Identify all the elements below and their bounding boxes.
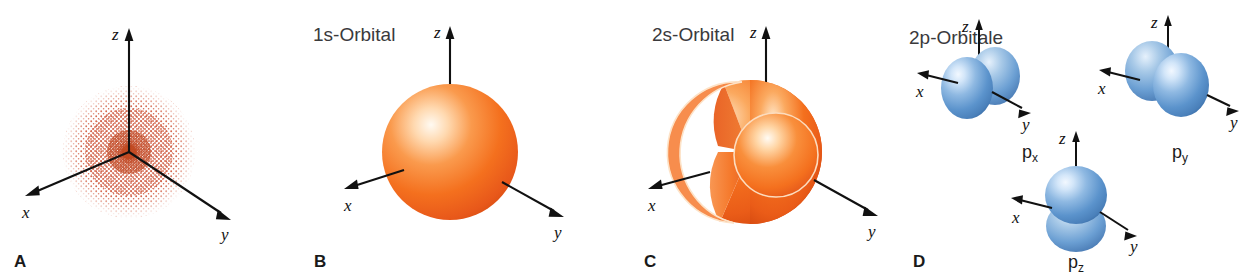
axis-label-y: y [219, 225, 229, 244]
panel-letter-b: B [314, 253, 326, 270]
axis-label-y: y [1128, 237, 1138, 256]
p-orbital-py: z x y p y [1097, 13, 1239, 165]
axis-label-x: x [1011, 208, 1020, 227]
axis-label-y: y [552, 223, 562, 242]
axis-label-z: z [111, 25, 119, 44]
axis-label-z: z [961, 17, 969, 36]
panel-a-electron-cloud: z x y A [0, 0, 300, 276]
panel-b-1s-orbital: 1s-Orbital [300, 0, 600, 276]
px-label-sub: x [1032, 151, 1038, 165]
panel-letter-d: D [913, 253, 925, 270]
z-axis-arrowhead [446, 26, 455, 39]
x-axis-arrowhead [917, 70, 929, 79]
axis-label-x: x [915, 82, 924, 101]
y-axis-arrowhead [549, 208, 564, 218]
y-axis-arrowhead [216, 210, 231, 220]
z-axis-arrowhead [125, 28, 134, 41]
panel-d-graphic: z x y p x [900, 0, 1252, 276]
axis-label-x: x [343, 196, 352, 215]
px-lobe-front [941, 57, 993, 119]
py-lobe-front [1153, 53, 1209, 117]
py-label-sub: y [1182, 151, 1188, 165]
axis-label-x: x [647, 196, 656, 215]
axis-label-y: y [866, 222, 876, 241]
x-axis-arrowhead [1011, 195, 1023, 204]
x-axis-arrowhead [1099, 67, 1111, 76]
axis-label-y: y [1228, 113, 1238, 132]
x-axis-arrowhead [25, 186, 40, 197]
axis-label-z: z [1150, 13, 1158, 32]
panel-c-2s-orbital: 2s-Orbital [600, 0, 900, 276]
orbital-figure: z x y A 1s-Orbital [0, 0, 1252, 276]
x-axis-arrowhead [648, 180, 663, 189]
z-axis-arrowhead [975, 19, 983, 30]
panel-letter-a: A [14, 253, 26, 270]
panel-d-2p-orbitals: 2p-Orbitale [900, 0, 1252, 276]
axis-label-z: z [1058, 129, 1066, 148]
axis-label-x: x [1097, 79, 1106, 98]
px-label: p [1022, 142, 1032, 162]
x-axis-arrowhead [344, 180, 359, 190]
p-orbital-px: z x y p x [915, 17, 1038, 165]
z-axis-arrowhead [1164, 15, 1172, 26]
axis-label-y: y [1020, 115, 1030, 134]
axis-label-z: z [433, 23, 441, 42]
panel-letter-c: C [644, 253, 656, 270]
panel-c-graphic: z x y [600, 0, 900, 276]
axis-label-z: z [749, 23, 757, 42]
1s-sphere [382, 84, 518, 220]
pz-label: p [1068, 252, 1078, 272]
axis-label-x: x [21, 203, 30, 222]
y-axis-arrowhead [863, 207, 878, 216]
py-label: p [1172, 142, 1182, 162]
panel-b-graphic: z x y [300, 0, 600, 276]
z-axis-arrowhead [762, 26, 771, 39]
2s-inner-sphere [734, 113, 818, 197]
z-axis-arrowhead [1072, 131, 1080, 142]
pz-lobe-upper [1045, 166, 1107, 224]
panel-a-graphic: z x y [0, 0, 300, 276]
pz-label-sub: z [1078, 261, 1084, 275]
